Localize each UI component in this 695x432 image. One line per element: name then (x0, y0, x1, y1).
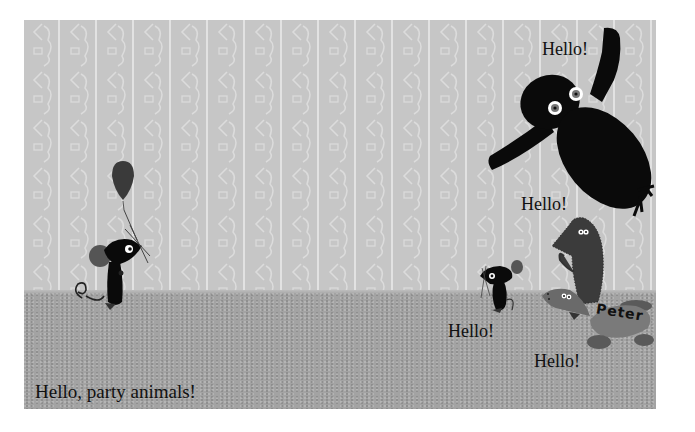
illustration-scene: Peter Hello! Hello! Hello! Hello! Hello,… (24, 20, 656, 409)
mouse-with-balloon-icon (76, 225, 150, 310)
owl-greeting: Hello! (542, 40, 588, 58)
tortoise-greeting: Hello! (534, 352, 580, 370)
small-mouse-icon (480, 260, 523, 313)
balloon-icon (112, 161, 137, 240)
small-mouse-greeting: Hello! (448, 322, 494, 340)
scene-caption: Hello, party animals! (35, 382, 196, 401)
hedgehog-greeting: Hello! (521, 195, 567, 213)
